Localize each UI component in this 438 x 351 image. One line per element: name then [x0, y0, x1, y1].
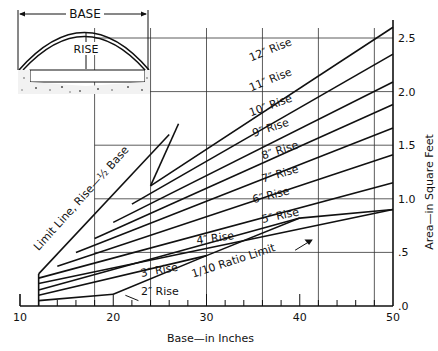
- ratio-limit-label: 1/10 Ratio Limit: [190, 241, 278, 281]
- x-tick-label: 40: [293, 311, 307, 324]
- footing: [30, 70, 145, 82]
- x-tick-label: 30: [200, 311, 214, 324]
- curve-layer: 2″ Rise3″ Rise4″ Rise5″ Rise6″ Rise7″ Ri…: [31, 27, 393, 306]
- rise-label: RISE: [74, 43, 99, 56]
- series-label: 4″ Rise: [196, 229, 235, 247]
- two-inch-rise-arrow: [125, 295, 138, 300]
- arrow-right-icon: [141, 12, 147, 17]
- y-tick-label: .5: [398, 246, 409, 259]
- series-label: 11″ Rise: [247, 65, 294, 94]
- base-label: BASE: [69, 7, 101, 21]
- series-line: [39, 294, 114, 300]
- arrow-left-icon: [19, 12, 25, 17]
- x-tick-label: 20: [106, 311, 120, 324]
- x-tick-label: 10: [13, 311, 27, 324]
- series-label: 2″ Rise: [141, 285, 179, 298]
- y-tick-label: 1.5: [398, 139, 416, 152]
- axis-layer: 1020304050.0.51.01.52.02.5Base—in Inches…: [13, 20, 436, 345]
- y-axis-label: Area—in Square Feet: [423, 133, 436, 249]
- series-label: 3″ Rise: [140, 261, 180, 280]
- chart: 2″ Rise3″ Rise4″ Rise5″ Rise6″ Rise7″ Ri…: [0, 0, 438, 351]
- x-axis-label: Base—in Inches: [167, 332, 254, 345]
- y-tick-label: 1.0: [398, 193, 416, 206]
- series-label: 8″ Rise: [260, 138, 300, 162]
- y-tick-label: .0: [398, 300, 409, 313]
- series-label: 6″ Rise: [251, 184, 291, 206]
- series-label: 7″ Rise: [260, 162, 300, 185]
- series-label: 12″ Rise: [247, 35, 294, 64]
- y-tick-label: 2.5: [398, 32, 416, 45]
- series-line: [39, 256, 207, 296]
- y-tick-label: 2.0: [398, 86, 416, 99]
- culvert-inset-diagram: BASE RISE: [18, 7, 150, 94]
